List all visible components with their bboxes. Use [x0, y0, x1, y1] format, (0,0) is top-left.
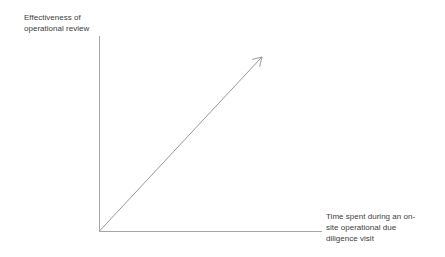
chart-canvas: Effectiveness of operational review Time… [0, 0, 445, 257]
trend-arrow-shaft [100, 59, 261, 231]
x-axis-label: Time spent during an on- site operationa… [326, 211, 444, 244]
y-axis-label: Effectiveness of operational review [24, 12, 120, 34]
